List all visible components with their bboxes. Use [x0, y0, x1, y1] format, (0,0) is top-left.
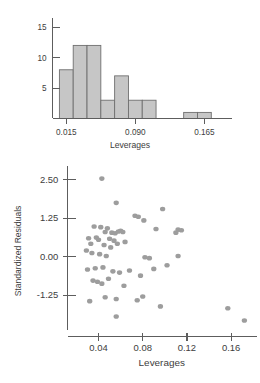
histogram-bar: [142, 100, 156, 118]
histogram-bar: [101, 100, 115, 118]
scatter-y-tick-label: 1.25: [40, 214, 59, 223]
histogram-panel: 51015 0.0150.0900.165 Leverages: [0, 0, 260, 158]
scatter-point: [242, 318, 247, 323]
scatter-point: [127, 268, 132, 273]
scatter-point: [160, 207, 165, 212]
scatter-point: [88, 241, 93, 246]
scatter-point: [87, 299, 92, 304]
histogram-bar: [197, 112, 211, 118]
scatter-point: [151, 267, 156, 272]
scatter-y-tick-label: 2.50: [40, 175, 59, 184]
scatter-point: [147, 256, 152, 261]
scatter-point: [136, 214, 141, 219]
scatter-point: [122, 240, 127, 245]
scatter-point: [117, 270, 122, 275]
scatter-point: [175, 254, 180, 259]
scatter-point: [158, 304, 163, 309]
scatter-x-axis-title: Leverages: [139, 359, 186, 368]
scatter-point: [98, 225, 103, 230]
histogram-y-tick-label: 15: [37, 23, 47, 32]
scatter-y-axis-title: Standardized Residuals: [12, 205, 23, 296]
scatter-plot: 2.501.250.00-1.25 0.040.080.120.16 Lever…: [0, 158, 260, 383]
scatter-point: [104, 254, 109, 259]
scatter-point: [93, 266, 98, 271]
scatter-point: [101, 243, 106, 248]
scatter-point: [141, 218, 146, 223]
histogram-bar: [73, 45, 87, 118]
scatter-panel: 2.501.250.00-1.25 0.040.080.120.16 Lever…: [0, 158, 260, 383]
scatter-point: [100, 265, 105, 270]
scatter-point: [99, 176, 104, 181]
scatter-point: [138, 273, 143, 278]
scatter-point: [96, 237, 101, 242]
scatter-point: [173, 230, 178, 235]
scatter-point: [114, 314, 119, 319]
scatter-point: [114, 297, 119, 302]
scatter-point: [225, 306, 230, 311]
histogram-plot: 51015 0.0150.0900.165 Leverages: [0, 0, 260, 158]
scatter-point: [108, 245, 113, 250]
scatter-point: [135, 298, 140, 303]
histogram-bar: [128, 100, 142, 118]
scatter-point: [164, 263, 169, 268]
scatter-point: [91, 224, 96, 229]
histogram-bar: [184, 112, 198, 118]
scatter-point: [121, 284, 126, 289]
scatter-x-tick-label: 0.16: [222, 344, 241, 353]
scatter-x-tick-label: 0.08: [134, 344, 153, 353]
histogram-x-ticks-group: 0.0150.0900.165: [56, 119, 215, 137]
histogram-x-tick-label: 0.165: [194, 128, 215, 137]
histogram-x-tick-label: 0.015: [56, 128, 77, 137]
scatter-point: [142, 255, 147, 260]
histogram-y-ticks-group: 51015: [37, 23, 59, 93]
scatter-point: [103, 230, 108, 235]
scatter-point: [103, 295, 108, 300]
scatter-point: [86, 236, 91, 241]
histogram-y-tick-label: 10: [37, 54, 47, 63]
scatter-point: [97, 252, 102, 257]
scatter-point: [179, 228, 184, 233]
scatter-y-tick-label: 0.00: [40, 252, 59, 261]
scatter-y-ticks-group: 2.501.250.00-1.25: [37, 175, 76, 299]
figure-root: 51015 0.0150.0900.165 Leverages 2.501.25…: [0, 0, 260, 383]
histogram-y-tick-label: 5: [42, 84, 47, 93]
scatter-point: [120, 230, 125, 235]
scatter-point: [153, 227, 158, 232]
scatter-y-tick-label: -1.25: [37, 291, 59, 300]
histogram-x-axis-title: Leverages: [110, 140, 150, 150]
scatter-point: [84, 248, 89, 253]
histogram-bar: [115, 76, 129, 119]
scatter-x-tick-label: 0.12: [178, 344, 197, 353]
histogram-bar: [87, 45, 101, 118]
scatter-point: [85, 267, 90, 272]
scatter-points-group: [84, 176, 247, 323]
scatter-point: [89, 251, 94, 256]
scatter-point: [114, 201, 119, 206]
histogram-bar: [59, 70, 73, 119]
histogram-x-tick-label: 0.090: [125, 128, 146, 137]
scatter-x-tick-label: 0.04: [89, 344, 108, 353]
scatter-point: [99, 281, 104, 286]
scatter-point: [110, 269, 115, 274]
histogram-bars-group: [59, 45, 211, 118]
scatter-point: [140, 294, 145, 299]
scatter-point: [106, 276, 111, 281]
scatter-point: [115, 241, 120, 246]
scatter-x-ticks-group: 0.040.080.120.16: [89, 333, 240, 354]
